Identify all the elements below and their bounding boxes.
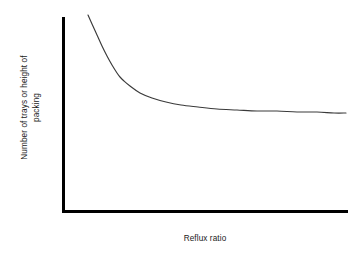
y-axis-label-line-1: Number of trays or height of	[19, 55, 31, 159]
y-axis-label-line-2: packing	[30, 55, 42, 159]
y-axis-label: Number of trays or height of packing	[0, 0, 60, 214]
x-axis-label: Reflux ratio	[62, 234, 348, 243]
data-curve	[88, 15, 346, 113]
chart-figure: Number of trays or height of packing Ref…	[0, 0, 360, 254]
